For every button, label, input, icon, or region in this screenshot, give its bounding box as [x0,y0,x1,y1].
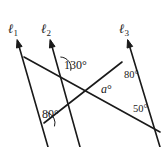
line-label-l1: ℓ1 [8,22,18,38]
angle-50: 50° [133,104,148,115]
angle-130-text: 130° [64,58,87,72]
line-l3 [128,41,160,147]
line-l1 [18,41,49,147]
line-label-l2: ℓ2 [41,22,51,38]
arrow-l2 [49,40,55,48]
line-l2 [51,41,81,147]
angle-a: a° [101,83,112,95]
angle-130: 130° [64,59,87,71]
geometry-diagram: ℓ1ℓ2ℓ3 130°a°80°50°80° [0,0,167,147]
line-label-l3: ℓ3 [119,22,129,38]
arrow-l3 [127,40,133,48]
geometry-canvas [0,0,167,147]
angle-80-right-text: 80° [124,69,139,80]
line-label-subscript: 2 [46,28,51,38]
angle-80-left: 80° [42,108,59,120]
line-label-subscript: 1 [13,28,18,38]
lines-group [18,41,161,147]
angle-a-degree-symbol: ° [107,82,112,96]
arrow-l1 [17,40,23,48]
angle-80-right: 80° [124,70,139,81]
angle-50-text: 50° [133,103,148,114]
line-label-subscript: 3 [124,28,129,38]
angle-80-left-text: 80° [42,107,59,121]
arrowheads-group [17,40,133,49]
